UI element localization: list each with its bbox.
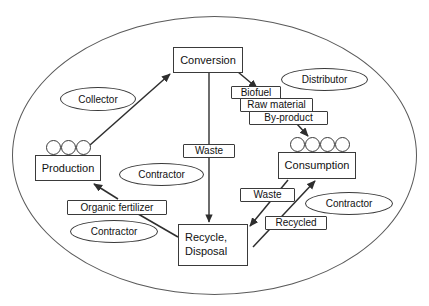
actor-distributor[interactable]: Distributor [281,68,368,91]
actor-collector[interactable]: Collector [60,87,136,111]
actor-contractor-left[interactable]: Contractor [70,220,158,243]
diagram-canvas: Conversion Production Consumption Recycl… [0,0,429,306]
actor-contractor-center[interactable]: Contractor [119,163,204,186]
arrow-fertilizer-to-production [94,184,118,199]
node-production[interactable]: Production [35,155,101,181]
production-unit-dot [76,140,91,155]
flow-label-waste-center[interactable]: Waste [183,144,235,158]
node-recycle-line1: Recycle, [185,231,227,245]
flow-label-by-product[interactable]: By-product [249,111,328,125]
flow-label-raw-material[interactable]: Raw material [240,98,313,112]
flow-label-waste-right[interactable]: Waste [240,188,295,202]
production-units [46,140,91,155]
node-recycle-disposal[interactable]: Recycle, Disposal [178,224,248,266]
production-unit-dot [61,140,76,155]
arrow-byproduct-to-consumption [297,124,308,136]
consumption-units [290,137,350,152]
consumption-unit-dot [320,137,335,152]
production-unit-dot [46,140,61,155]
flow-label-organic-fertilizer[interactable]: Organic fertilizer [67,200,167,215]
flow-label-recycled[interactable]: Recycled [265,216,327,230]
node-conversion[interactable]: Conversion [173,47,243,73]
consumption-unit-dot [335,137,350,152]
consumption-unit-dot [305,137,320,152]
node-consumption[interactable]: Consumption [278,152,356,179]
node-recycle-line2: Disposal [185,245,227,259]
actor-contractor-right[interactable]: Contractor [305,192,393,215]
consumption-unit-dot [290,137,305,152]
